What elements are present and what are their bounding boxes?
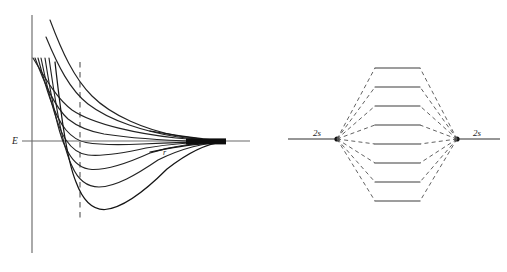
left-2s-label: 2s [313, 128, 322, 138]
fan-ray-left-5 [337, 139, 375, 144]
fan-ray-right-3 [420, 106, 457, 139]
fan-ray-left-8 [337, 139, 375, 201]
right-2s-label: 2s [473, 128, 482, 138]
fan-ray-right-5 [420, 139, 457, 144]
figure-root: E r [0, 0, 507, 272]
fan-ray-right-8 [420, 139, 457, 201]
figure-canvas: E r [0, 0, 507, 272]
fan-ray-right-7 [420, 139, 457, 182]
left-panel-potential-curves: E r [11, 15, 250, 253]
fan-ray-left-7 [337, 139, 375, 182]
fan-ray-left-6 [337, 139, 375, 163]
fan-ray-right-6 [420, 139, 457, 163]
fan-ray-right-2 [420, 87, 457, 139]
potential-curve-8 [49, 58, 222, 187]
potential-curve-7 [45, 58, 222, 170]
fan-ray-left-3 [337, 106, 375, 139]
fan-ray-left-1 [337, 68, 375, 139]
fan-ray-right-1 [420, 68, 457, 139]
energy-axis-label: E [11, 136, 18, 146]
continuum-band [186, 138, 226, 144]
potential-curve-5 [38, 58, 222, 145]
fan-ray-left-2 [337, 87, 375, 139]
potential-curve-1 [50, 20, 222, 141]
potential-curve-2 [46, 37, 222, 141]
right-panel-band-splitting: 2s 2s [288, 68, 500, 201]
